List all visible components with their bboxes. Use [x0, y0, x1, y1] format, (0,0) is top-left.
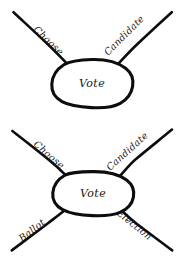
spoke-candidate-top[interactable]: Candidate: [102, 12, 172, 63]
node-label-vote-bottom: Vote: [80, 187, 106, 200]
diagram-canvas: Choose Candidate Vote Choose: [0, 0, 184, 261]
node-vote-top[interactable]: Vote: [52, 59, 133, 107]
spoke-candidate-bottom[interactable]: Candidate: [104, 129, 172, 176]
vote-four-spoke-diagram: Choose Candidate Ballot Election Vote: [12, 129, 172, 250]
spoke-label-ballot-bottom: Ballot: [16, 216, 47, 244]
spoke-choose-top[interactable]: Choose: [14, 12, 67, 63]
spoke-choose-bottom[interactable]: Choose: [12, 131, 67, 176]
spoke-label-choose-top: Choose: [32, 24, 66, 58]
spoke-ballot-bottom[interactable]: Ballot: [12, 209, 67, 250]
spoke-label-candidate-bottom: Candidate: [104, 129, 150, 172]
sketch-surface: Choose Candidate Vote Choose: [0, 0, 184, 261]
spoke-election-bottom[interactable]: Election: [114, 206, 172, 250]
node-label-vote-top: Vote: [79, 77, 105, 90]
spoke-label-choose-bottom: Choose: [32, 138, 67, 171]
vote-two-spoke-diagram: Choose Candidate Vote: [14, 12, 172, 108]
spoke-label-candidate-top: Candidate: [102, 13, 147, 58]
node-vote-bottom[interactable]: Vote: [53, 172, 134, 216]
